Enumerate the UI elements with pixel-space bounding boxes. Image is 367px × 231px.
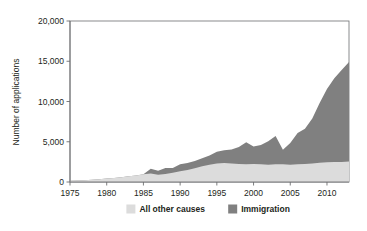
y-axis: 05,00010,00015,00020,000 [38,16,70,187]
y-axis-label: Number of applications [11,59,21,146]
y-tick-label: 0 [59,177,64,187]
legend-swatch [228,205,237,214]
legend-label: All other causes [139,204,205,214]
legend-label: Immigration [241,204,290,214]
x-tick-label: 1985 [134,188,153,198]
y-tick-label: 5,000 [43,137,65,147]
x-tick-label: 1995 [207,188,226,198]
y-tick-label: 15,000 [38,56,64,66]
x-tick-group: 19751980198519901995200020052010 [61,182,337,198]
x-tick-label: 2000 [244,188,263,198]
chart-page: 05,00010,00015,00020,000 197519801985199… [0,0,367,231]
chart-legend: All other causesImmigration [126,204,289,214]
y-tick-label: 20,000 [38,16,64,26]
x-axis: 19751980198519901995200020052010 [61,182,349,198]
x-tick-label: 1980 [97,188,116,198]
x-tick-label: 1975 [61,188,80,198]
legend-swatch [126,205,135,214]
y-tick-group: 05,00010,00015,00020,000 [38,16,70,187]
x-tick-label: 2005 [281,188,300,198]
stacked-area-chart: 05,00010,00015,00020,000 197519801985199… [0,0,367,231]
x-tick-label: 1990 [171,188,190,198]
x-tick-label: 2010 [318,188,337,198]
y-tick-label: 10,000 [38,97,64,107]
